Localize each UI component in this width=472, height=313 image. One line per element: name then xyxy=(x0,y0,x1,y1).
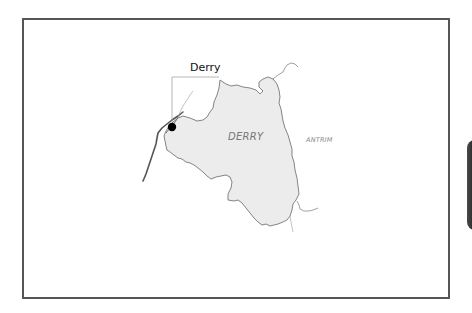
city-label: Derry xyxy=(190,61,221,74)
river-thin-south xyxy=(290,216,293,232)
river-thin-northeast xyxy=(273,63,298,79)
city-marker-derry[interactable] xyxy=(168,123,176,131)
river-thin-east xyxy=(297,201,318,211)
edge-tab xyxy=(467,140,472,230)
county-label: DERRY xyxy=(228,131,264,142)
map-canvas: Derry DERRY ANTRIM xyxy=(0,0,472,313)
map-svg xyxy=(0,0,472,313)
neighbor-county-label: ANTRIM xyxy=(306,136,333,144)
county-derry-region xyxy=(164,77,299,226)
